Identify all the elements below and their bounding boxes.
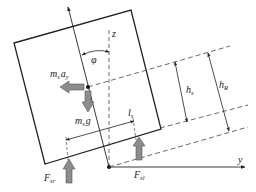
hr-dimension xyxy=(208,53,229,131)
y-axis-label: y xyxy=(237,154,243,165)
angle-phi-label: φ xyxy=(91,54,97,65)
free-body-diagram: z φ y msay msg hs hR ls Fsr Fsl xyxy=(0,0,256,192)
bottom-dashed-line xyxy=(160,105,248,128)
z-axis-label: z xyxy=(111,28,116,39)
fsr-label: Fsr xyxy=(43,172,56,184)
roll-axis-dashed-line xyxy=(109,127,248,167)
hr-label: hR xyxy=(219,79,228,91)
lateral-force-arrow xyxy=(60,81,84,93)
hs-label: hs xyxy=(186,84,194,96)
left-spring-force-arrow xyxy=(133,137,145,160)
fsl-label: Fsl xyxy=(133,169,145,181)
center-of-gravity xyxy=(86,85,90,89)
right-spring-force-arrow xyxy=(63,159,75,183)
ls-label: ls xyxy=(128,107,134,119)
gravity-force-label: msg xyxy=(75,115,91,127)
lateral-force-label: msay xyxy=(50,68,69,80)
